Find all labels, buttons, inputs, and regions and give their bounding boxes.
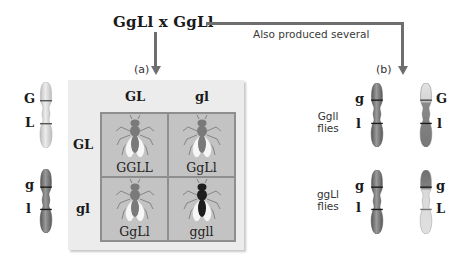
group-1-chrom-1-allele-top: g <box>355 91 364 106</box>
genotype-label: GgLl <box>186 161 216 175</box>
arrow-a-shaft <box>154 32 157 68</box>
column-gamete-1: GL <box>125 89 145 104</box>
group-2-chrom-2-allele-bottom: L <box>436 201 445 216</box>
row-gamete-2: gl <box>76 201 90 216</box>
row-gamete-1: GL <box>73 137 93 152</box>
group-2-chrom-1-allele-bottom: l <box>356 200 361 215</box>
group-1-chrom-2-allele-bottom: l <box>437 116 442 131</box>
arrow-b-head <box>398 66 408 75</box>
arrow-a-head <box>151 66 161 75</box>
fly-black-icon <box>182 179 222 225</box>
genotype-label: GgLl <box>119 225 149 239</box>
genotype-label: GGLL <box>116 161 153 175</box>
group-1-chromosome-dark <box>370 83 384 147</box>
group-1-chromosome-mixed <box>419 83 433 147</box>
punnett-cell: GGLL <box>101 113 168 177</box>
group-1-flies: flies <box>313 122 343 134</box>
punnett-square: GGLL GgLl GgLl ggll <box>100 112 236 242</box>
part-a-label: (a) <box>134 63 149 76</box>
group-1-chrom-1-allele-bottom: l <box>356 116 361 131</box>
group-1-chrom-2-allele-top: G <box>436 91 447 106</box>
fly-grey-icon <box>115 179 155 225</box>
punnett-cell: GgLl <box>101 177 168 241</box>
group-2-chrom-1-allele-top: g <box>355 178 364 193</box>
parent-chromosome-dark <box>39 169 53 233</box>
group-2-chromosome-dark <box>370 170 384 234</box>
cross-title: GgLl x GgLl <box>113 13 214 31</box>
punnett-cell: GgLl <box>168 113 235 177</box>
group-2-genotype: ggLl <box>313 188 343 200</box>
parent-chromosome-light <box>39 82 53 148</box>
parent-chrom-2-allele-bottom: l <box>26 201 31 216</box>
punnett-cell: ggll <box>168 177 235 241</box>
parent-chrom-1-allele-bottom: L <box>25 115 34 130</box>
group-2-flies: flies <box>313 200 343 212</box>
genotype-label: ggll <box>190 225 214 239</box>
fly-grey-icon <box>115 115 155 161</box>
parent-chrom-2-allele-top: g <box>25 177 34 192</box>
arrow-b-vertical <box>401 22 404 68</box>
fly-grey-icon <box>182 115 222 161</box>
part-b-label: (b) <box>376 63 392 76</box>
parent-chrom-1-allele-top: G <box>24 91 35 106</box>
branch-note: Also produced several <box>253 28 369 40</box>
column-gamete-2: gl <box>195 89 209 104</box>
group-2-chromosome-mixed <box>419 170 433 234</box>
group-1-genotype: Ggll <box>313 110 343 122</box>
arrow-b-horizontal <box>206 22 404 25</box>
group-2-chrom-2-allele-top: g <box>436 178 445 193</box>
